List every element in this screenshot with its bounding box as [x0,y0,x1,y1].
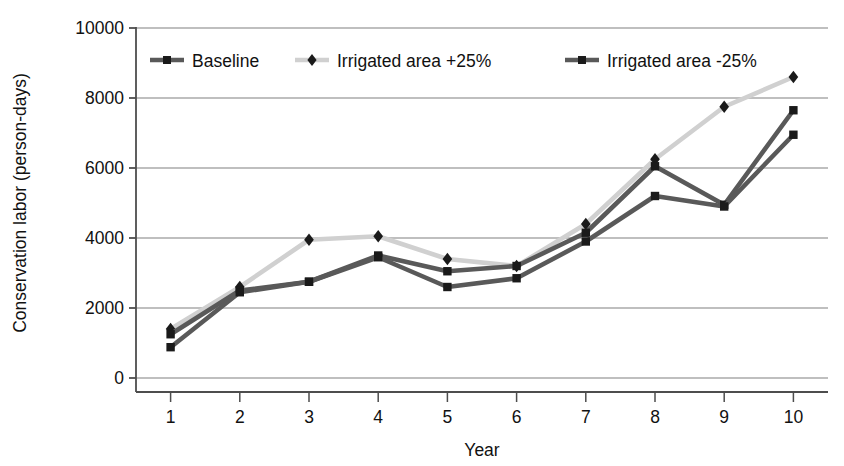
data-point-marker-square [236,288,244,296]
data-point-marker-square [578,56,586,64]
x-tick-label: 6 [512,407,522,427]
data-point-marker-square [374,253,382,261]
x-tick-label: 1 [166,407,176,427]
chart-legend: BaselineIrrigated area +25%Irrigated are… [150,51,757,71]
data-point-marker-square [651,162,659,170]
line-chart: 0200040006000800010000 12345678910 Basel… [0,0,844,466]
data-point-marker-square [443,267,451,275]
data-point-marker-square [166,343,174,351]
x-axis-label: Year [464,440,500,460]
data-point-marker-square [512,262,520,270]
legend-label: Irrigated area -25% [607,51,757,71]
data-point-marker-square [789,131,797,139]
data-point-marker-square [789,106,797,114]
x-tick-label: 2 [235,407,245,427]
data-point-marker-square [651,192,659,200]
x-tick-label: 3 [304,407,314,427]
data-point-marker-square [582,237,590,245]
x-tick-label: 4 [373,407,383,427]
y-tick-label: 4000 [85,228,124,248]
legend-label: Baseline [192,51,259,71]
x-tick-label: 9 [719,407,729,427]
x-tick-label: 7 [581,407,591,427]
y-tick-label: 10000 [75,18,124,38]
data-point-marker-square [582,229,590,237]
data-point-marker-square [443,283,451,291]
y-tick-label: 0 [114,368,124,388]
y-tick-label: 8000 [85,88,124,108]
y-tick-label: 6000 [85,158,124,178]
chart-figure: 0200040006000800010000 12345678910 Basel… [0,0,844,466]
y-tick-label: 2000 [85,298,124,318]
data-point-marker-square [305,278,313,286]
data-point-marker-square [166,330,174,338]
data-point-marker-square [163,56,171,64]
legend-label: Irrigated area +25% [337,51,491,71]
y-axis-label: Conservation labor (person-days) [10,73,30,333]
x-tick-label: 8 [650,407,660,427]
x-tick-label: 10 [784,407,804,427]
x-tick-label: 5 [443,407,453,427]
data-point-marker-square [720,202,728,210]
data-point-marker-square [512,274,520,282]
